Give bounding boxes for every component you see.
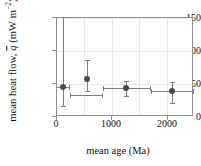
y-axis-label-exponent: −2 (4, 2, 13, 10)
x-axis-label: mean age (Ma) (38, 145, 198, 156)
gridline-vertical-1000 (112, 18, 113, 115)
data-point-4 (169, 88, 175, 94)
gridline-vertical-500 (84, 18, 85, 115)
y-axis-label: mean heat flow, q (mW m−2) (4, 6, 18, 122)
gridline-horizontal-100 (57, 51, 192, 52)
x-tick-mark-0 (56, 116, 57, 120)
heat-flow-vs-age-chart: mean heat flow, q (mW m−2) mean age (Ma)… (0, 0, 201, 166)
errorbar-horizontal-2 (70, 95, 103, 96)
x-tick-label-1000: 1000 (91, 119, 131, 129)
errorbar-cap-right-1 (69, 85, 70, 90)
errorbar-cap-bottom-1 (61, 106, 66, 107)
x-tick-mark-1000 (111, 116, 112, 120)
errorbar-cap-right-4 (193, 89, 194, 94)
y-axis-label-units-open: (mW m (7, 10, 18, 45)
gridline-vertical-1500 (139, 18, 140, 115)
data-point-3 (123, 85, 129, 91)
errorbar-cap-right-2 (102, 93, 103, 98)
errorbar-cap-top-4 (170, 82, 175, 83)
gridline-horizontal-150 (57, 18, 192, 19)
data-point-2 (84, 76, 90, 82)
y-axis-label-prefix: mean heat flow, (7, 51, 18, 122)
data-point-1 (60, 84, 66, 90)
errorbar-vertical-1 (63, 17, 64, 106)
errorbar-cap-left-2 (70, 93, 71, 98)
y-axis-label-units-close: ) (7, 0, 18, 2)
plot-area (56, 17, 193, 116)
errorbar-cap-top-1 (61, 17, 66, 18)
q-bar-symbol: q (7, 46, 18, 51)
errorbar-cap-top-2 (85, 60, 90, 61)
x-tick-label-0: 0 (36, 119, 76, 129)
gridline-vertical-2000 (167, 18, 168, 115)
errorbar-cap-bottom-3 (124, 96, 129, 97)
errorbar-cap-left-4 (151, 89, 152, 94)
x-tick-mark-2000 (167, 116, 168, 120)
errorbar-cap-bottom-2 (85, 91, 90, 92)
errorbar-cap-top-3 (124, 81, 129, 82)
errorbar-cap-left-3 (103, 86, 104, 91)
errorbar-cap-bottom-4 (170, 103, 175, 104)
x-tick-label-2000: 2000 (147, 119, 187, 129)
